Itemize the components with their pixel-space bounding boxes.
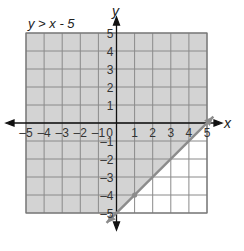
x-tick-label: 3 (167, 126, 174, 140)
y-tick-label: –3 (100, 171, 114, 185)
x-axis-label: x (223, 115, 232, 131)
x-tick-label: –5 (19, 126, 33, 140)
y-tick-label: 5 (107, 27, 114, 41)
y-tick-label: 4 (107, 45, 114, 59)
x-tick-label: 1 (131, 126, 138, 140)
y-tick-label: –1 (100, 135, 114, 149)
x-tick-label: –2 (74, 126, 88, 140)
chart-title: y > x - 5 (27, 16, 75, 31)
x-tick-label: –4 (37, 126, 51, 140)
y-axis-label: y (111, 3, 120, 19)
y-tick-label: 1 (107, 99, 114, 113)
y-tick-label: –2 (100, 153, 114, 167)
x-tick-label: 2 (149, 126, 156, 140)
x-tick-label: 4 (186, 126, 193, 140)
y-tick-label: 3 (107, 63, 114, 77)
x-tick-label: 5 (204, 126, 211, 140)
inequality-graph: –5–4–3–2–1012345 54321–1–2–3–4–5 x y y >… (0, 0, 244, 251)
y-tick-label: 2 (107, 81, 114, 95)
x-tick-label: –3 (56, 126, 70, 140)
y-tick-label: –4 (100, 189, 114, 203)
y-tick-label: –5 (100, 207, 114, 221)
